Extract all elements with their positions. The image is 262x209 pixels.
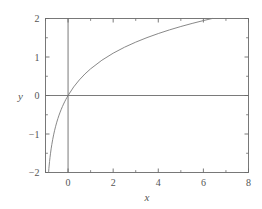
x-axis-title: x [144, 191, 150, 203]
y-tick-label: 0 [35, 90, 40, 101]
figure-canvas: 02468−2−1012xy [0, 0, 262, 209]
y-tick-label: −2 [29, 167, 40, 178]
y-tick-label: −1 [29, 129, 40, 140]
log-curve-plot: 02468−2−1012xy [0, 0, 262, 209]
y-axis-title: y [17, 90, 23, 102]
y-tick-label: 1 [35, 52, 40, 63]
x-tick-label: 2 [111, 177, 116, 188]
y-tick-label: 2 [35, 13, 40, 24]
x-tick-label: 6 [201, 177, 206, 188]
x-tick-label: 0 [66, 177, 71, 188]
x-tick-label: 4 [156, 177, 161, 188]
x-tick-label: 8 [246, 177, 251, 188]
